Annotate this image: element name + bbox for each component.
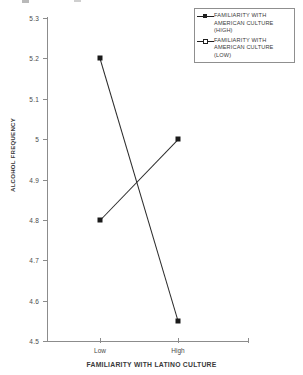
legend-marker-square-icon — [197, 38, 214, 45]
legend-label-low: FAMILIARITY WITH AMERICAN CULTURE (LOW) — [214, 37, 291, 60]
x-tick-label: Low — [94, 347, 106, 354]
y-tick-label: 5 — [13, 136, 39, 143]
data-point-marker[interactable] — [98, 217, 103, 222]
y-tick-label: 4.8 — [13, 216, 39, 223]
legend-marker-filled-square-icon — [197, 13, 214, 20]
x-axis-line — [47, 341, 249, 342]
y-tick-label: 4.6 — [13, 297, 39, 304]
data-point-marker[interactable] — [176, 318, 181, 323]
page-crop-marks — [0, 0, 303, 6]
y-tick-label: 4.9 — [13, 176, 39, 183]
y-tick-label: 5.2 — [13, 55, 39, 62]
data-point-marker[interactable] — [176, 137, 181, 142]
y-axis-title: ALCOHOL FREQUENCY — [10, 95, 16, 215]
y-tick — [43, 341, 48, 342]
legend-item-high[interactable]: FAMILIARITY WITH AMERICAN CULTURE (HIGH) — [197, 12, 291, 35]
y-tick-label: 5.3 — [13, 15, 39, 22]
data-point-marker[interactable] — [98, 56, 103, 61]
y-tick-label: 4.7 — [13, 257, 39, 264]
x-axis-title: FAMILIARITY WITH LATINO CULTURE — [0, 361, 303, 368]
legend-item-low[interactable]: FAMILIARITY WITH AMERICAN CULTURE (LOW) — [197, 37, 291, 60]
crop-mark-left — [22, 0, 29, 3]
y-tick-label: 4.5 — [13, 338, 39, 345]
x-axis-end-tick — [248, 338, 249, 343]
y-tick-label: 5.1 — [13, 95, 39, 102]
x-tick-label: High — [171, 347, 184, 354]
legend-label-high: FAMILIARITY WITH AMERICAN CULTURE (HIGH) — [214, 12, 291, 35]
interaction-plot: 5.35.25.154.94.84.74.64.5 LowHigh ALCOHO… — [0, 0, 303, 375]
plot-area — [47, 18, 248, 341]
chart-legend: FAMILIARITY WITH AMERICAN CULTURE (HIGH)… — [194, 8, 295, 63]
crop-mark-right — [74, 0, 81, 2]
